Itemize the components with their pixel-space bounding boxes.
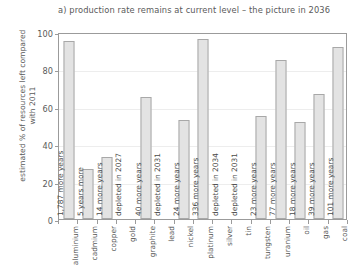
bar-annotation: depleted in 2027 — [114, 153, 123, 216]
y-axis-tick-label: 60 — [43, 104, 59, 114]
bar-annotation: 39 more years — [307, 162, 316, 216]
x-axis: aluminiumcadmiumcoppergoldgraphiteleadni… — [58, 220, 347, 276]
x-axis-tick — [347, 220, 348, 224]
x-axis-tick — [174, 220, 175, 224]
chart-container: a) production rate remains at current le… — [0, 0, 355, 276]
bar-annotation: depleted in 2031 — [230, 153, 239, 216]
x-axis-tick — [328, 220, 329, 224]
x-axis-label: tungsten — [263, 226, 272, 259]
x-axis-tick — [154, 220, 155, 224]
x-axis-label: gold — [128, 226, 137, 242]
bar-annotation: 77 more years — [268, 162, 277, 216]
bar-annotation: 18 more years — [288, 162, 297, 216]
x-axis-label: coal — [340, 226, 349, 241]
bar-series: 1,787 more years5 years more14 more year… — [59, 34, 346, 219]
x-axis-tick — [58, 220, 59, 224]
bar-annotation: 1,787 more years — [56, 151, 65, 216]
x-axis-label: uranium — [283, 226, 292, 257]
bar-slot[interactable]: 101 more years — [329, 34, 348, 219]
y-axis-label: estimated % of resources left compared w… — [18, 26, 37, 186]
bar-annotation: 14 more years — [95, 162, 104, 216]
x-axis-tick — [270, 220, 271, 224]
x-axis-tick — [77, 220, 78, 224]
y-axis-tick-label: 100 — [37, 29, 59, 39]
x-axis-label: graphite — [148, 226, 157, 257]
x-axis-tick — [97, 220, 98, 224]
x-axis-label: aluminium — [71, 226, 80, 265]
x-axis-tick — [212, 220, 213, 224]
bar-annotation: depleted in 2034 — [211, 153, 220, 216]
x-axis-label: cadmium — [90, 226, 99, 260]
x-axis-label: nickel — [186, 226, 195, 247]
bar-annotation: 101 more years — [326, 158, 335, 216]
x-axis-label: silver — [225, 226, 234, 246]
x-axis-tick — [231, 220, 232, 224]
x-axis-tick — [289, 220, 290, 224]
x-axis-label: oil — [302, 226, 311, 235]
bar-annotation: 24 more years — [172, 162, 181, 216]
x-axis-tick — [135, 220, 136, 224]
x-axis-tick — [308, 220, 309, 224]
x-axis-label: copper — [109, 226, 118, 252]
x-axis-tick — [193, 220, 194, 224]
bar-annotation: 40 more years — [134, 162, 143, 216]
y-axis-tick-label: 80 — [43, 66, 59, 76]
x-axis-label: gas — [321, 226, 330, 239]
bar-annotation: 5 years more — [76, 167, 85, 216]
x-axis-label: tin — [244, 226, 253, 236]
chart-title: a) production rate remains at current le… — [58, 5, 353, 15]
plot-area: 020406080100 1,787 more years5 years mor… — [58, 33, 347, 220]
x-axis-tick — [251, 220, 252, 224]
x-axis-label: platinum — [206, 226, 215, 259]
x-axis-label: lead — [167, 226, 176, 242]
bar-annotation: depleted in 2031 — [153, 153, 162, 216]
bar-annotation: 23 more years — [249, 162, 258, 216]
x-axis-tick — [116, 220, 117, 224]
bar-annotation: 336 more years — [191, 158, 200, 216]
